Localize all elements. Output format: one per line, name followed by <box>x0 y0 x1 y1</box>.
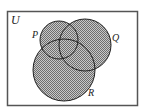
set-r-label: R <box>87 87 94 98</box>
set-p-label: P <box>31 29 38 40</box>
universe-label: U <box>11 13 21 27</box>
set-q-label: Q <box>112 32 120 43</box>
venn-diagram: U P Q R <box>0 0 147 111</box>
